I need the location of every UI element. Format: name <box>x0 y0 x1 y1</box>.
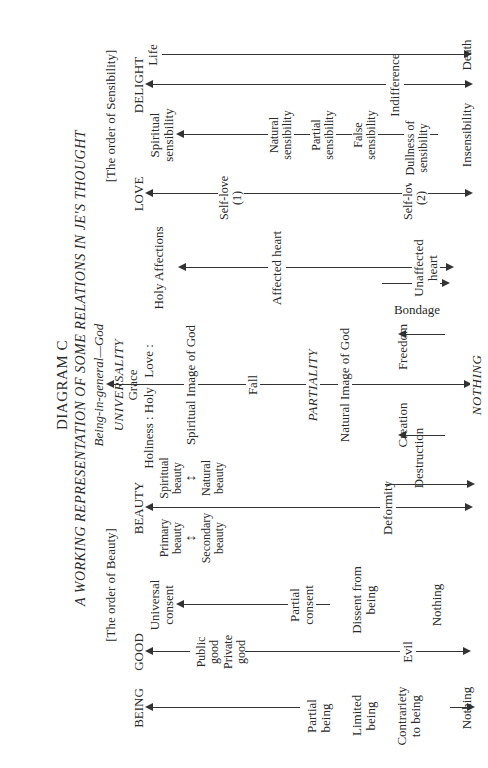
death-label: Death <box>460 39 474 70</box>
partial-being-label: Partial being <box>305 703 333 733</box>
insensibility-label: Insensibility <box>460 103 474 167</box>
contrariety-to-being-label: Contrariety to being <box>395 686 423 746</box>
unaffected-heart-label: Unaffected heart <box>412 233 440 303</box>
bondage-label: Bondage <box>394 303 440 317</box>
evil-label: Evil <box>401 641 415 663</box>
freedom-label: Freedom <box>396 324 410 370</box>
holy-affections-label: Holy Affections <box>152 226 166 309</box>
love-heading: LOVE <box>132 177 146 212</box>
spiritual-sensibility-label: Spiritual sensibility <box>148 100 176 170</box>
indifference-label: Indifference <box>386 53 404 116</box>
secondary-beauty-label: Secondary beauty <box>200 510 226 566</box>
consent-nothing-label: Nothing <box>430 584 444 627</box>
good-heading: GOOD <box>132 633 146 671</box>
universality-axis <box>108 384 470 385</box>
being-in-general-label: Being-in-general—God <box>92 324 106 447</box>
fall-label: Fall <box>246 372 260 398</box>
deformity-label: Deformity <box>381 481 395 535</box>
primary-beauty-label: Primary beauty <box>158 513 184 563</box>
partial-consent-label: Partial consent <box>288 577 316 633</box>
holiness-label: Holiness : Holy <box>142 387 156 469</box>
being-heading: BEING <box>132 688 146 728</box>
beauty-arrow <box>147 507 471 508</box>
diagram-title: DIAGRAM C <box>55 340 69 430</box>
delight-arrow <box>147 84 471 85</box>
diagram-subtitle: A WORKING REPRESENTATION OF SOME RELATIO… <box>74 130 88 606</box>
spiritual-natural-double-arrow-icon: ↕ <box>184 475 198 482</box>
dissent-from-being-label: Dissent from being <box>350 565 378 635</box>
unaffected-heart-arrow <box>440 267 452 268</box>
affected-heart-label: Affected heart <box>268 228 286 308</box>
order-of-beauty-label: [The order of Beauty] <box>104 528 118 642</box>
primary-secondary-double-arrow-icon: ↕ <box>184 535 198 542</box>
affections-arrow <box>180 267 440 268</box>
universality-heading: UNIVERSALITY <box>112 339 126 432</box>
love-colon-label: Love : <box>142 344 156 378</box>
beauty-heading: BEAUTY <box>132 482 146 535</box>
natural-sensibility-label: Natural sensibility <box>268 103 294 167</box>
limited-being-label: Limited being <box>350 696 378 736</box>
public-good-label: Public good <box>195 634 221 670</box>
destruction-arrow <box>385 484 473 485</box>
private-good-label: Private good <box>222 634 248 670</box>
dullness-of-sensibility-label: Dullness of sensibility <box>404 113 430 183</box>
delight-heading: DELIGHT <box>132 57 146 113</box>
natural-image-of-god-label: Natural Image of God <box>338 325 352 445</box>
self-love-1-label: Self-love (1) <box>218 175 244 221</box>
being-nothing-label: Nothing <box>460 687 474 730</box>
destruction-label: Destruction <box>412 428 426 489</box>
sensibility-arrow <box>178 134 438 135</box>
creation-label: Creation <box>396 403 410 448</box>
order-of-sensibility-label: [The order of Sensibility] <box>104 50 118 183</box>
natural-beauty-label: Natural beauty <box>200 453 226 503</box>
universal-consent-label: Universal consent <box>148 575 176 635</box>
life-death-arrow <box>162 54 470 55</box>
life-label: Life <box>146 44 160 66</box>
spiritual-beauty-label: Spiritual beauty <box>158 453 184 503</box>
partiality-label: PARTIALITY <box>306 346 320 425</box>
spiritual-image-of-god-label: Spiritual Image of God <box>184 322 198 448</box>
partial-sensibility-label: Partial sensibility <box>310 103 336 167</box>
grace-label: Grace <box>126 369 140 400</box>
diagram-page: DIAGRAM C A WORKING REPRESENTATION OF SO… <box>0 0 488 768</box>
nothing-heading: NOTHING <box>470 355 484 416</box>
false-sensibility-label: False sensibility <box>352 103 378 167</box>
